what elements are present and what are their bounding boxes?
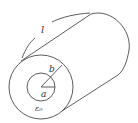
permittivity-label: ε₀: [35, 104, 43, 113]
cylinder-far-end-arc: [91, 13, 129, 75]
coaxial-cylinder-diagram: l b a ε₀: [0, 0, 138, 123]
cylinder-top-edge: [21, 14, 91, 61]
inner-radius-label: a: [41, 89, 46, 99]
length-arc-left: [22, 38, 35, 58]
length-label: l: [41, 24, 44, 35]
length-arc-right: [52, 13, 90, 22]
cylinder-bottom-edge: [62, 75, 118, 111]
outer-radius-label: b: [49, 64, 55, 74]
